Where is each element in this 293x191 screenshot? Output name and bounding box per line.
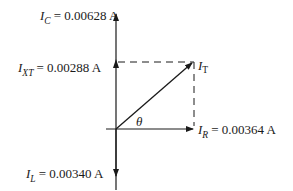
ixt-arrowhead [113, 59, 119, 68]
theta-label: θ [136, 114, 143, 129]
it-label: IT [197, 58, 208, 75]
ir-label: IR= 0.00364 A [197, 122, 277, 140]
ixt-label: IXT= 0.00288 A [17, 60, 102, 78]
it-arrow [116, 63, 192, 129]
phasor-diagram: IC= 0.00628 A IXT= 0.00288 A IT IR= 0.00… [0, 0, 293, 191]
il-label: IL= 0.00340 A [25, 166, 104, 184]
ic-label: IC= 0.00628 A [39, 8, 119, 26]
